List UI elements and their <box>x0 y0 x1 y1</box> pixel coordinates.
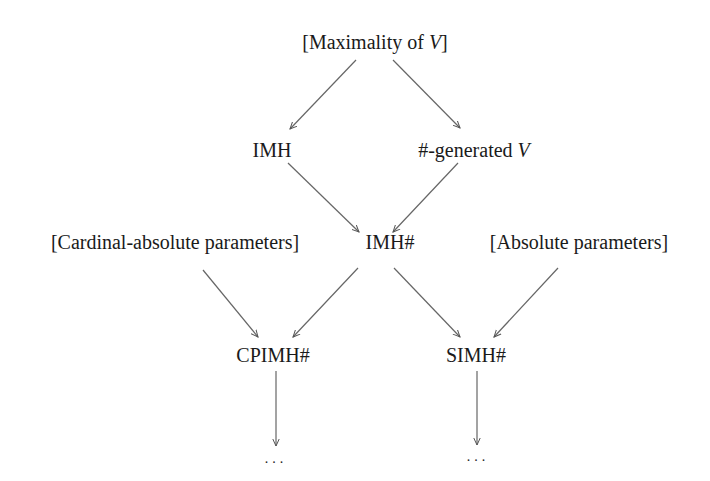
ellipsis-right: ... <box>467 449 490 465</box>
node-absolute-parameters: [Absolute parameters] <box>490 232 668 252</box>
edge-cardinal-absolute-to-cpimh-sharp <box>203 270 258 337</box>
node-label-variable: V <box>518 139 530 161</box>
node-cardinal-absolute-parameters: [Cardinal-absolute parameters] <box>51 232 299 252</box>
edge-maximality-to-imh <box>290 60 356 129</box>
node-sharp-generated-v: #-generated V <box>418 140 530 160</box>
edge-imh-sharp-to-simh-sharp <box>394 268 460 337</box>
edge-imh-to-imh-sharp <box>288 163 359 232</box>
node-maximality-of-v: [Maximality of V] <box>302 32 448 52</box>
node-cpimh-sharp: CPIMH# <box>236 345 309 365</box>
node-imh-sharp: IMH# <box>366 232 415 252</box>
edge-imh-sharp-to-cpimh-sharp <box>293 268 358 337</box>
edge-maximality-to-sharp-generated <box>393 60 460 128</box>
edge-sharp-generated-to-imh-sharp <box>393 163 458 232</box>
node-label-variable: V <box>429 31 441 53</box>
edge-absolute-to-simh-sharp <box>494 268 558 337</box>
node-label-suffix: ] <box>441 31 448 53</box>
node-label-prefix: #-generated <box>418 139 517 161</box>
node-imh: IMH <box>253 140 292 160</box>
node-simh-sharp: SIMH# <box>446 345 506 365</box>
ellipsis-left: ... <box>265 451 288 467</box>
node-label-prefix: [Maximality of <box>302 31 429 53</box>
